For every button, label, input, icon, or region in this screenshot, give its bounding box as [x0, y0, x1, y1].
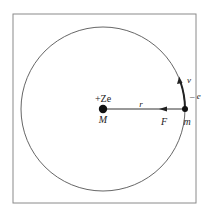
nucleus-charge-label: +Ze: [95, 93, 112, 104]
nucleus-dot: [99, 105, 107, 113]
electron-dot: [182, 106, 188, 112]
electron-charge-label: – e: [189, 91, 201, 101]
radius-label: r: [139, 99, 143, 109]
velocity-arc: [181, 82, 186, 109]
velocity-label: v: [187, 75, 191, 85]
bohr-orbit-diagram: +Ze M r F m v – e: [0, 0, 213, 214]
nucleus-mass-label: M: [98, 114, 108, 125]
force-arrow-icon: [159, 107, 167, 112]
force-label: F: [160, 116, 168, 127]
velocity-arrow-icon: [177, 77, 183, 85]
electron-mass-label: m: [183, 116, 190, 127]
